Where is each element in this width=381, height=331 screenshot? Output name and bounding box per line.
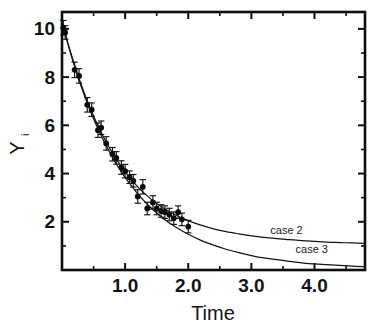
data-point <box>150 200 156 206</box>
data-point <box>62 30 68 36</box>
data-point <box>103 141 109 147</box>
curve-label-case-3: case 3 <box>296 243 328 255</box>
x-tick-label: 1.0 <box>112 275 138 296</box>
data-point <box>171 215 177 221</box>
y-axis-title: Y <box>6 141 28 154</box>
data-point <box>72 67 78 73</box>
data-point <box>144 206 150 212</box>
y-tick-label: 6 <box>44 115 55 136</box>
data-point <box>122 168 128 174</box>
y-tick-label: 2 <box>44 211 55 232</box>
y-axis-title-subscript: i <box>19 134 31 136</box>
data-point <box>113 155 119 161</box>
x-tick-label: 2.0 <box>175 275 201 296</box>
y-tick-label: 4 <box>44 163 55 184</box>
data-point <box>98 125 104 131</box>
data-point <box>130 178 136 184</box>
chart-figure: 1.02.03.04.0 246810 case 2 case 3 Y i Ti… <box>0 0 381 331</box>
data-point <box>140 184 146 190</box>
data-point <box>175 209 181 215</box>
data-point <box>76 73 82 79</box>
y-tick-label: 8 <box>44 67 55 88</box>
x-tick-label: 3.0 <box>238 275 264 296</box>
data-point <box>135 194 141 200</box>
scatter-plot-canvas: 1.02.03.04.0 246810 case 2 case 3 Y i Ti… <box>0 0 381 331</box>
data-point <box>89 107 95 113</box>
data-point <box>185 224 191 230</box>
curve-label-case-2: case 2 <box>270 224 302 236</box>
x-axis-title: Time <box>191 302 235 324</box>
y-tick-label: 10 <box>34 18 55 39</box>
data-point <box>84 102 90 108</box>
data-point <box>179 216 185 222</box>
x-tick-label: 4.0 <box>301 275 327 296</box>
